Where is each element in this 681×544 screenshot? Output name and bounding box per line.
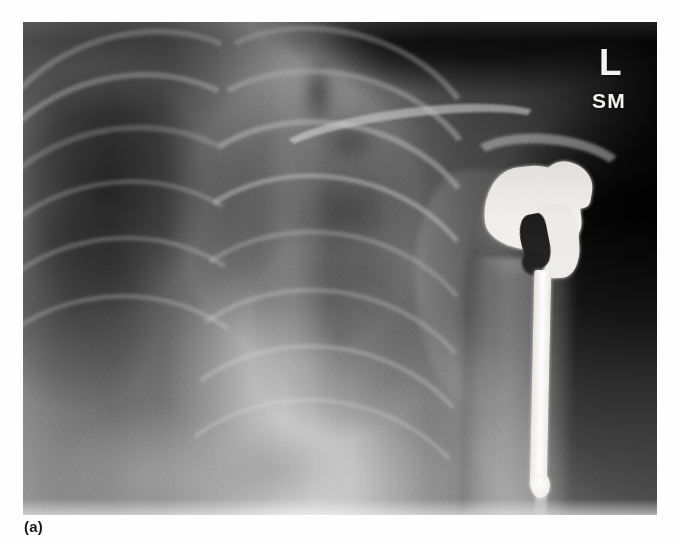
vertical-exposure-gradient xyxy=(23,22,657,515)
spine-column xyxy=(261,52,325,472)
lung-field-left xyxy=(23,22,657,515)
rib-arc xyxy=(126,268,510,515)
rib-arc xyxy=(150,22,508,290)
rib-arc xyxy=(23,214,303,515)
neck-soft-tissue xyxy=(323,22,453,92)
prosthesis-stem-distal-shadow xyxy=(535,496,547,515)
film-vignette xyxy=(23,22,657,515)
rib-arc xyxy=(136,93,511,415)
aortic-knob xyxy=(323,118,379,164)
film-grain-texture-diagonal xyxy=(23,22,657,515)
scapula xyxy=(415,170,535,410)
humeral-shaft xyxy=(460,257,579,515)
technologist-initials-marker: SM xyxy=(592,90,626,111)
radiographic-markers: L SM xyxy=(592,44,629,111)
rib-arc xyxy=(23,154,306,479)
figure-container: L SM (a) xyxy=(0,0,681,544)
film-base-density xyxy=(23,22,657,515)
acromion xyxy=(458,127,634,222)
rib-arc xyxy=(23,22,310,291)
prosthesis-intramedullary-stem xyxy=(530,270,552,492)
axilla-shadow xyxy=(543,272,657,502)
rib-arc xyxy=(23,95,311,419)
film-bottom-edge xyxy=(23,499,657,515)
radiograph-image: L SM xyxy=(23,22,657,515)
rib-cage xyxy=(23,22,657,515)
diaphragm-right xyxy=(53,414,253,515)
film-grain-texture xyxy=(23,22,657,515)
rib-arc xyxy=(23,40,308,350)
soft-tissue-shadows xyxy=(23,22,657,515)
heart-border xyxy=(173,272,343,472)
glenoid xyxy=(475,190,531,276)
diaphragm-left xyxy=(259,426,469,515)
rib-arc xyxy=(124,326,508,515)
prosthesis-radiolucent-notch xyxy=(516,212,554,270)
shoulder-prosthesis xyxy=(23,22,657,515)
gas-shadow xyxy=(219,432,339,512)
rib-arc xyxy=(122,383,503,515)
figure-label: (a) xyxy=(24,518,43,535)
prosthesis-neck xyxy=(532,203,581,280)
prosthesis-stem-tip xyxy=(531,474,550,498)
rib-arc xyxy=(131,149,511,479)
rib-arc xyxy=(129,207,512,515)
trachea-shadow xyxy=(301,58,335,128)
scapula-tip xyxy=(427,322,491,432)
lateral-chest-wall xyxy=(423,352,543,515)
apex-soft-tissue xyxy=(29,24,179,114)
lung-field-right xyxy=(23,22,657,515)
prosthesis-head-flare xyxy=(540,158,597,210)
prosthesis-humeral-head xyxy=(480,161,584,257)
clavicle xyxy=(273,108,533,152)
rib-arc xyxy=(23,277,299,515)
hilar-vessels xyxy=(309,172,387,254)
prosthesis-radiolucent-notch-lower xyxy=(519,249,546,278)
rib-arc xyxy=(143,39,511,349)
laterality-marker-left: L xyxy=(592,44,629,81)
